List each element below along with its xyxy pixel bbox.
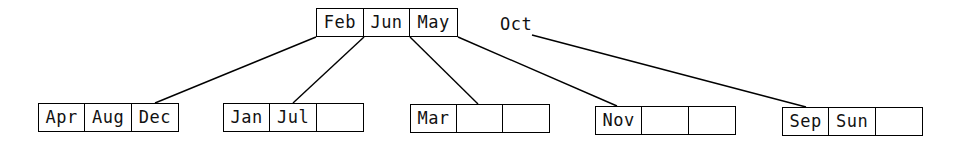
leaf-key: Sun <box>829 108 875 135</box>
leaf-node-mar: Mar <box>410 104 550 133</box>
leaf-key-empty <box>317 104 363 131</box>
leaf-key-empty <box>642 107 688 134</box>
leaf-key-empty <box>689 107 735 134</box>
leaf-node-jan-jul: Jan Jul <box>223 103 364 132</box>
leaf-key-empty <box>457 105 503 132</box>
tree-edge <box>458 37 617 106</box>
leaf-key: Apr <box>39 104 85 131</box>
pending-key-oct: Oct <box>500 14 532 34</box>
leaf-key-empty <box>876 108 922 135</box>
leaf-key: Mar <box>411 105 457 132</box>
tree-edge <box>532 35 806 107</box>
tree-edge <box>410 37 478 104</box>
root-node: Feb Jun May <box>316 8 458 37</box>
leaf-key: Nov <box>596 107 642 134</box>
leaf-key: Jul <box>270 104 316 131</box>
root-key-2: Jun <box>364 9 411 36</box>
root-key-3: May <box>410 9 457 36</box>
leaf-key: Jan <box>224 104 270 131</box>
leaf-key-empty <box>503 105 549 132</box>
leaf-key: Dec <box>132 104 178 131</box>
root-key-1: Feb <box>317 9 364 36</box>
tree-edge <box>155 37 316 103</box>
leaf-node-sep-sun: Sep Sun <box>782 107 923 136</box>
tree-edge <box>293 37 364 103</box>
leaf-key: Aug <box>85 104 131 131</box>
leaf-node-nov: Nov <box>595 106 736 135</box>
leaf-node-apr-aug-dec: Apr Aug Dec <box>38 103 179 132</box>
leaf-key: Sep <box>783 108 829 135</box>
